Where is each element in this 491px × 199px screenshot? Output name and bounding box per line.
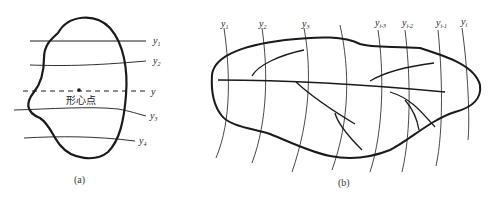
label-y2: y2 xyxy=(152,55,160,67)
crack-lower-b xyxy=(335,113,362,150)
label-y3: y3 xyxy=(149,110,157,122)
crack-right-b xyxy=(405,100,419,130)
caption-b: (b) xyxy=(338,177,350,189)
section-line-yi-1 xyxy=(436,30,442,166)
centroid-point xyxy=(77,88,81,92)
label-b-yi-3: yi-3 xyxy=(374,17,386,29)
label-b-y2: y2 xyxy=(258,18,266,30)
panel-b: y1 y2 y3 yi-3 yi-2 yi-1 yi (b) xyxy=(212,16,480,189)
label-b-yi: yi xyxy=(460,16,467,28)
label-y-axis: y xyxy=(150,86,156,97)
label-b-yi-1: yi-1 xyxy=(435,17,447,29)
label-b-yi-2: yi-2 xyxy=(401,17,413,29)
section-line-y2 xyxy=(252,28,266,163)
section-line-y1 xyxy=(216,28,228,158)
label-y4: y4 xyxy=(138,135,146,147)
section-line-yi-3 xyxy=(370,30,382,172)
label-y1: y1 xyxy=(152,35,160,47)
label-b-y3: y3 xyxy=(301,18,309,30)
panel-a: y1 y2 y y3 y4 形心点 (a) xyxy=(14,18,160,186)
centroid-label: 形心点 xyxy=(66,95,96,106)
caption-a: (a) xyxy=(74,174,85,186)
crack-upper-left xyxy=(252,50,304,76)
label-b-y1: y1 xyxy=(220,18,228,30)
line-y2 xyxy=(30,61,146,66)
section-line-mid xyxy=(332,25,347,170)
section-line-yi xyxy=(462,28,469,140)
section-line-y3 xyxy=(292,28,308,172)
crack-upper-right xyxy=(370,63,434,81)
diagram-canvas: y1 y2 y y3 y4 形心点 (a) y1 y2 y3 yi-3 yi-2 xyxy=(0,0,491,199)
crack-main xyxy=(218,80,445,92)
